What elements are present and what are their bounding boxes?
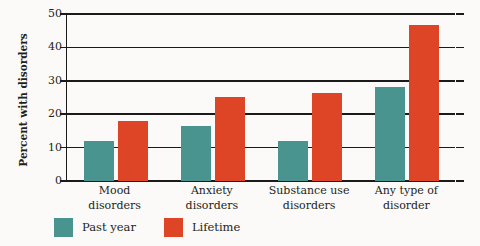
bar-past-year-1 [181, 126, 211, 181]
category-label-3: Any type ofdisorder [358, 184, 455, 213]
legend-swatch-icon [54, 218, 73, 237]
y-tick-label-20: 20 [38, 108, 62, 119]
bar-lifetime-0 [118, 121, 148, 181]
y-tick-label-10: 10 [38, 142, 62, 153]
axis-tick-left-50 [60, 13, 67, 15]
x-axis-category-labels: MooddisordersAnxietydisordersSubstance u… [66, 184, 455, 220]
legend-label: Past year [82, 220, 136, 234]
category-label-line: disorders [66, 199, 163, 214]
y-tick-label-0: 0 [38, 175, 62, 186]
axis-tick-left-10 [60, 147, 67, 149]
y-axis-tick-labels: 01020304050 [34, 0, 62, 246]
y-tick-label-50: 50 [38, 8, 62, 19]
category-label-line: disorders [163, 199, 260, 214]
y-tick-label-30: 30 [38, 75, 62, 86]
legend-item-past-year[interactable]: Past year [54, 218, 136, 237]
axis-tick-right-30 [456, 80, 464, 82]
bar-chart-figure: Percent with disorders 01020304050 Moodd… [0, 0, 480, 246]
bar-past-year-3 [375, 87, 405, 181]
bar-past-year-0 [84, 141, 114, 181]
axis-tick-right-20 [456, 113, 464, 115]
bar-series-container [67, 14, 455, 181]
legend-swatch-icon [164, 218, 183, 237]
y-tick-label-40: 40 [38, 41, 62, 52]
bar-lifetime-1 [215, 97, 245, 181]
axis-tick-left-30 [60, 80, 67, 82]
axis-tick-right-10 [456, 147, 464, 149]
axis-tick-right-0 [456, 180, 464, 182]
category-label-1: Anxietydisorders [163, 184, 260, 213]
axis-tick-right-50 [456, 13, 464, 15]
legend-item-lifetime[interactable]: Lifetime [164, 218, 240, 237]
category-label-line: Substance use [261, 184, 358, 199]
category-label-line: disorders [261, 199, 358, 214]
category-label-line: Any type of [358, 184, 455, 199]
y-axis-title: Percent with disorders [14, 20, 32, 180]
plot-area [66, 14, 455, 181]
category-label-line: Anxiety [163, 184, 260, 199]
category-label-line: disorder [358, 199, 455, 214]
axis-tick-left-40 [60, 47, 67, 49]
y-axis-title-text: Percent with disorders [17, 33, 29, 166]
axis-tick-right-40 [456, 47, 464, 49]
bar-past-year-2 [278, 141, 308, 181]
bar-lifetime-3 [409, 25, 439, 181]
category-label-2: Substance usedisorders [261, 184, 358, 213]
axis-tick-left-20 [60, 113, 67, 115]
axis-tick-left-0 [60, 180, 67, 182]
legend-label: Lifetime [192, 220, 240, 234]
bar-lifetime-2 [312, 93, 342, 182]
category-label-line: Mood [66, 184, 163, 199]
chart-legend: Past yearLifetime [54, 216, 268, 238]
category-label-0: Mooddisorders [66, 184, 163, 213]
